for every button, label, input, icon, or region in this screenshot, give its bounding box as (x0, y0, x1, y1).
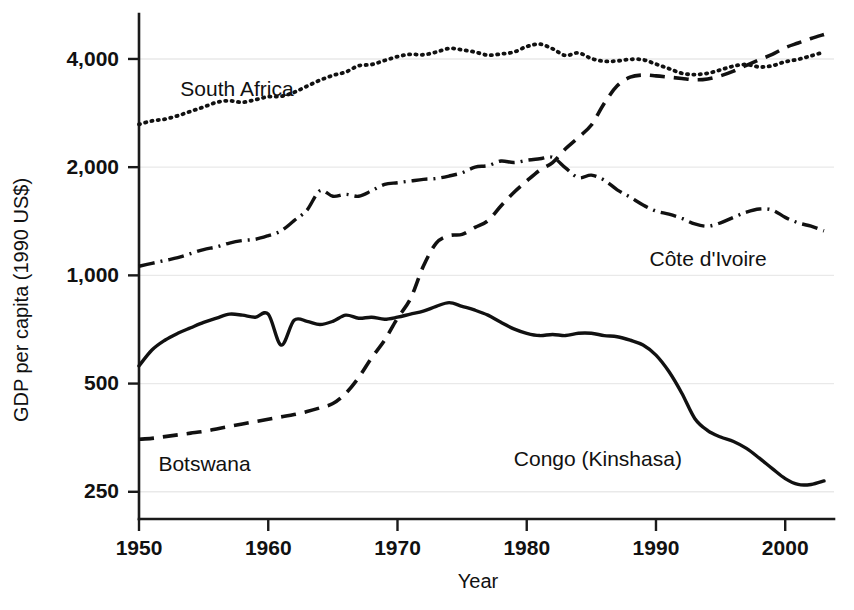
y-tick-label: 1,000 (66, 263, 119, 286)
gridlines-group (139, 59, 834, 492)
y-tick-label: 250 (84, 479, 119, 502)
series-label-c-te-d-ivoire: Côte d'Ivoire (650, 247, 767, 270)
y-tick-label: 4,000 (66, 47, 119, 70)
series-labels-group: South AfricaBotswanaCôte d'IvoireCongo (… (158, 77, 766, 475)
gdp-per-capita-line-chart: 2505001,0002,0004,000 195019601970198019… (0, 0, 854, 610)
series-label-south-africa: South Africa (180, 77, 294, 100)
y-tick-label: 500 (84, 371, 119, 394)
x-tick-label: 1980 (503, 536, 550, 559)
x-tick-label: 2000 (762, 536, 809, 559)
x-tick-label: 1950 (116, 536, 163, 559)
x-axis-ticks: 195019601970198019902000 (116, 519, 809, 559)
x-axis-title: Year (458, 570, 499, 592)
y-tick-label: 2,000 (66, 155, 119, 178)
y-axis-ticks: 2505001,0002,0004,000 (66, 47, 139, 503)
chart-canvas: 2505001,0002,0004,000 195019601970198019… (0, 0, 854, 610)
series-label-botswana: Botswana (158, 452, 251, 475)
x-tick-label: 1970 (374, 536, 421, 559)
x-tick-label: 1960 (245, 536, 292, 559)
x-tick-label: 1990 (633, 536, 680, 559)
series-label-congo-kinshasa: Congo (Kinshasa) (514, 447, 682, 470)
y-axis-title: GDP per capita (1990 US$) (10, 178, 32, 422)
